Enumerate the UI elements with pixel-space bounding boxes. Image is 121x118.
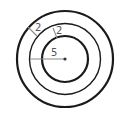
center-dot [63, 57, 66, 60]
radius-label: 5 [51, 47, 57, 58]
concentric-circles-diagram: 5 2 2 [0, 0, 121, 118]
inner-ring-width-label: 2 [56, 25, 62, 36]
outer-ring-width-label: 2 [35, 22, 41, 33]
